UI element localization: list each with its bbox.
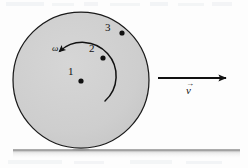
point-dot-1 — [78, 78, 83, 83]
point-dot-3 — [119, 30, 124, 35]
diagram-canvas — [0, 0, 248, 168]
point-label-1: 1 — [68, 66, 74, 77]
point-dot-2 — [100, 55, 105, 60]
velocity-vector-label: → v — [186, 82, 194, 96]
angular-velocity-label: ω — [52, 44, 58, 53]
point-label-2: 2 — [89, 43, 95, 54]
point-label-3: 3 — [105, 22, 111, 33]
physics-diagram-rolling-disk: 1 2 3 ω → v — [0, 0, 248, 168]
velocity-symbol: v — [186, 84, 191, 96]
